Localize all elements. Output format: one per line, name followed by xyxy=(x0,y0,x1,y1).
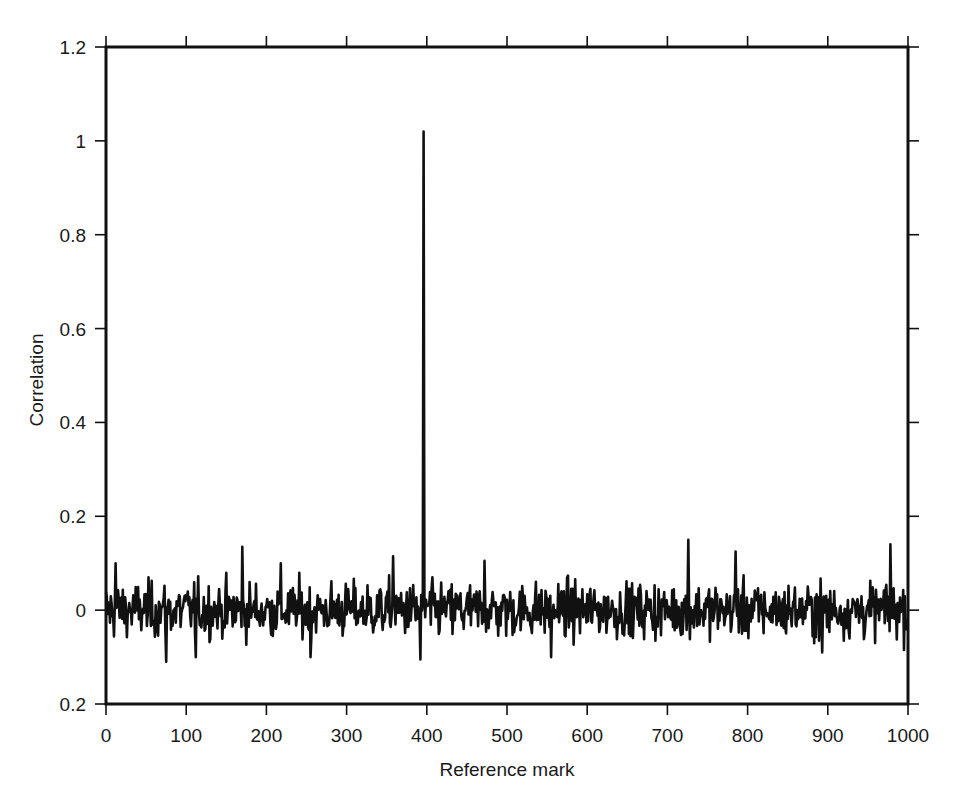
x-tick-label: 800 xyxy=(732,725,764,746)
y-axis-title: Correlation xyxy=(26,334,47,427)
y-axis-ticks: 1.210.80.60.40.200.2 xyxy=(60,37,106,715)
x-tick-label: 0 xyxy=(101,725,112,746)
y-tick-label: 1.2 xyxy=(60,37,86,58)
x-tick-label: 600 xyxy=(571,725,603,746)
y-tick-label: 0.2 xyxy=(60,694,86,715)
x-tick-label: 1000 xyxy=(887,725,929,746)
right-axis-ticks xyxy=(908,47,919,704)
x-tick-label: 400 xyxy=(411,725,443,746)
x-tick-label: 200 xyxy=(251,725,283,746)
y-tick-label: 1 xyxy=(75,131,86,152)
x-axis-title: Reference mark xyxy=(439,759,575,780)
y-tick-label: 0.8 xyxy=(60,225,86,246)
x-tick-label: 500 xyxy=(491,725,523,746)
x-tick-label: 700 xyxy=(652,725,684,746)
correlation-chart: 1.210.80.60.40.200.2 0100200300400500600… xyxy=(0,0,965,812)
x-tick-label: 300 xyxy=(331,725,363,746)
x-tick-label: 900 xyxy=(812,725,844,746)
y-tick-label: 0.2 xyxy=(60,506,86,527)
x-axis-ticks: 01002003004005006007008009001000 xyxy=(101,704,929,746)
x-tick-label: 100 xyxy=(170,725,202,746)
correlation-series-line xyxy=(106,132,907,662)
y-tick-label: 0 xyxy=(75,600,86,621)
y-tick-label: 0.4 xyxy=(60,412,87,433)
y-tick-label: 0.6 xyxy=(60,319,86,340)
top-axis-ticks xyxy=(106,36,908,47)
